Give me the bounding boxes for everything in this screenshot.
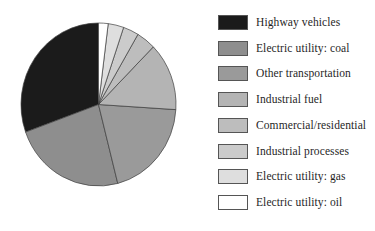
legend-item-other-transportation: Other transportation bbox=[218, 66, 351, 81]
legend-swatch-electric-utility-gas bbox=[218, 169, 248, 184]
legend-item-electric-utility-coal: Electric utility: coal bbox=[218, 41, 350, 56]
legend-swatch-industrial-fuel bbox=[218, 92, 248, 107]
legend-swatch-industrial-processes bbox=[218, 144, 248, 159]
legend-swatch-electric-utility-coal bbox=[218, 41, 248, 56]
legend-swatch-highway-vehicles bbox=[218, 15, 248, 30]
legend-item-commercial-residential: Commercial/residential bbox=[218, 118, 366, 133]
legend-swatch-commercial-residential bbox=[218, 118, 248, 133]
legend-item-industrial-processes: Industrial processes bbox=[218, 144, 349, 159]
legend-item-highway-vehicles: Highway vehicles bbox=[218, 15, 340, 30]
figure: Highway vehiclesElectric utility: coalOt… bbox=[0, 0, 375, 231]
legend-item-label: Industrial processes bbox=[256, 144, 349, 159]
legend-item-label: Commercial/residential bbox=[256, 118, 366, 133]
legend-item-label: Industrial fuel bbox=[256, 92, 322, 107]
legend-item-label: Electric utility: oil bbox=[256, 195, 342, 210]
legend-swatch-other-transportation bbox=[218, 66, 248, 81]
legend-item-label: Highway vehicles bbox=[256, 15, 340, 30]
legend-item-label: Electric utility: coal bbox=[256, 41, 350, 56]
legend-item-label: Other transportation bbox=[256, 66, 351, 81]
legend-item-electric-utility-oil: Electric utility: oil bbox=[218, 195, 342, 210]
legend-item-electric-utility-gas: Electric utility: gas bbox=[218, 169, 346, 184]
legend-item-label: Electric utility: gas bbox=[256, 169, 346, 184]
legend-item-industrial-fuel: Industrial fuel bbox=[218, 92, 322, 107]
legend-swatch-electric-utility-oil bbox=[218, 195, 248, 210]
